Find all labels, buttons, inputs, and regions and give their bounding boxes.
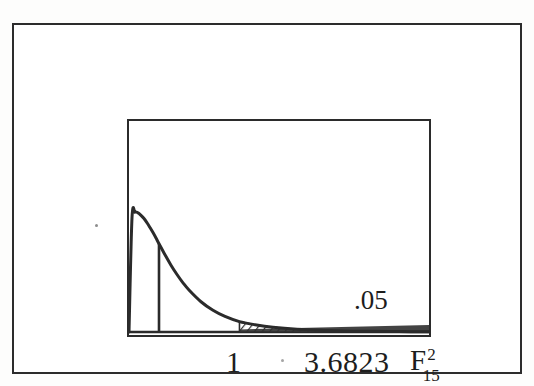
figure-page: .05 1 3.6823 F215 [0, 0, 534, 386]
scan-speck-artifact-2 [281, 359, 284, 362]
axis-tick-label-one: 1 [226, 347, 241, 377]
axis-tick-label-critical-value: 3.6823 [304, 347, 390, 377]
statistic-superscript: 2 [427, 345, 436, 364]
axis-statistic-symbol: F215 [410, 345, 452, 379]
alpha-annotation: .05 [354, 287, 388, 314]
outer-figure-border: .05 1 3.6823 F215 [12, 23, 522, 374]
statistic-subscript: 15 [423, 366, 440, 385]
scan-speck-artifact [95, 224, 98, 227]
